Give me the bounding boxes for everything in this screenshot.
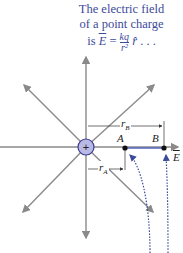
integration-paths [130, 155, 168, 253]
field-diagram: + [0, 0, 183, 253]
r-b-label: rB [120, 117, 131, 132]
charge-sign: + [83, 141, 89, 153]
point-charge-diagram: The electric field of a point charge is … [0, 0, 183, 253]
field-e-label: E [173, 151, 180, 163]
point-b-dot [161, 145, 166, 150]
point-a-dot [122, 145, 127, 150]
r-a-label: rA [98, 161, 109, 176]
point-b-label: B [152, 132, 159, 144]
point-a-label: A [117, 132, 124, 144]
